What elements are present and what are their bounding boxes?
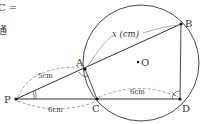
- label-c: C: [92, 103, 100, 114]
- label-d: D: [182, 103, 190, 114]
- geometry-diagram: P A B C D O 5cm 6cm 6cm x (cm): [0, 0, 205, 124]
- point-b: [179, 22, 182, 25]
- measure-ab: [87, 36, 112, 67]
- measure-ab-2: [143, 25, 179, 33]
- point-c: [95, 97, 98, 100]
- length-pa: 5cm: [38, 72, 53, 80]
- label-o: O: [141, 57, 149, 68]
- angle-mark-p: [33, 91, 34, 99]
- length-pc: 6cm: [48, 106, 63, 114]
- angle-mark-p2: [35, 90, 36, 99]
- label-b: B: [185, 18, 192, 29]
- angle-mark-d: [172, 91, 180, 99]
- label-p: P: [4, 94, 11, 105]
- label-a: A: [75, 57, 84, 68]
- point-d: [178, 97, 181, 100]
- segment-bd: [180, 24, 181, 99]
- segment-pb: [16, 24, 181, 99]
- point-p: [14, 97, 17, 100]
- length-ab: x (cm): [112, 29, 139, 39]
- point-o: [137, 61, 139, 63]
- point-a: [83, 67, 86, 70]
- length-cd: 6cm: [130, 88, 145, 96]
